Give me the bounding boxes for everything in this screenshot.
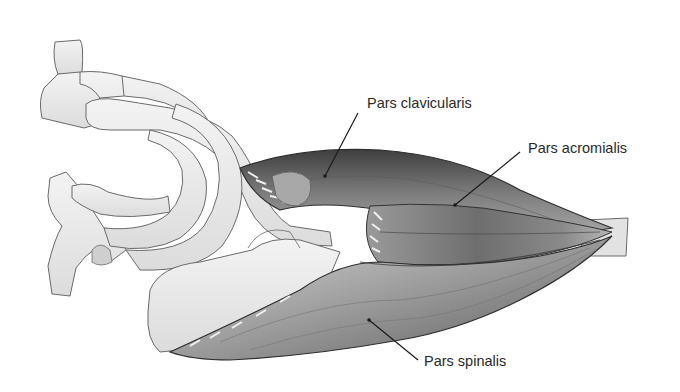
label-pars-acromialis: Pars acromialis xyxy=(528,141,627,156)
deltoid-diagram: Pars clavicularis Pars acromialis Pars s… xyxy=(0,0,680,392)
anatomy-illustration xyxy=(0,0,680,392)
label-pars-clavicularis: Pars clavicularis xyxy=(367,96,472,111)
label-pars-spinalis: Pars spinalis xyxy=(424,354,506,369)
